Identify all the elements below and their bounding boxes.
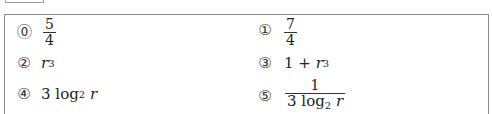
answer-label-box bbox=[5, 0, 44, 3]
choice-number-5: ⑤ bbox=[256, 87, 274, 105]
choice-1-expression: 7 4 bbox=[284, 17, 297, 48]
choice-2-expression: r3 bbox=[41, 54, 55, 72]
answer-choices-box: ⓪ 5 4 ① 7 4 ② r3 ③ 1 + r3 ④ 3 log2 r ⑤ bbox=[4, 14, 489, 114]
fraction: 1 3 log2 r bbox=[285, 78, 345, 113]
choice-number-1: ① bbox=[256, 21, 274, 39]
choice-number-2: ② bbox=[15, 54, 33, 72]
choice-3-expression: 1 + r3 bbox=[284, 54, 329, 72]
choice-4-expression: 3 log2 r bbox=[41, 85, 97, 103]
choice-2[interactable]: ② bbox=[15, 54, 33, 72]
choice-3[interactable]: ③ bbox=[256, 54, 274, 72]
choice-number-4: ④ bbox=[15, 85, 33, 103]
choice-1[interactable]: ① bbox=[256, 21, 274, 39]
choice-0[interactable]: ⓪ bbox=[15, 21, 33, 39]
fraction: 7 4 bbox=[284, 17, 297, 48]
choice-0-expression: 5 4 bbox=[43, 17, 56, 48]
choice-5[interactable]: ⑤ bbox=[256, 87, 274, 105]
choice-number-3: ③ bbox=[256, 54, 274, 72]
fraction: 5 4 bbox=[43, 17, 56, 48]
choice-number-0: ⓪ bbox=[15, 21, 33, 39]
choice-5-expression: 1 3 log2 r bbox=[285, 78, 345, 113]
choice-4[interactable]: ④ bbox=[15, 85, 33, 103]
